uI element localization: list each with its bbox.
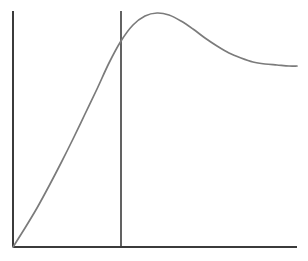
chart-figure (0, 0, 308, 261)
plot-area (0, 0, 308, 261)
data-curve-line (13, 13, 297, 247)
